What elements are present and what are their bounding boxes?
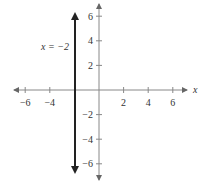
x-axis-label: x <box>192 84 198 95</box>
y-tick-label: −6 <box>82 158 93 169</box>
y-tick-label: 2 <box>88 60 93 71</box>
x-tick-label: −4 <box>44 97 55 108</box>
x-tick-label: 6 <box>170 97 175 108</box>
x-tick-label: −6 <box>20 97 31 108</box>
line-label: x = −2 <box>40 41 69 52</box>
x-tick-label: 4 <box>146 97 151 108</box>
x-tick-label: 2 <box>121 97 126 108</box>
y-tick-label: −2 <box>82 109 93 120</box>
coordinate-plane: −6−4246 642−2−4−6 x x = −2 <box>0 0 206 185</box>
y-tick-label: 4 <box>88 35 93 46</box>
y-tick-label: 6 <box>88 11 93 22</box>
y-tick-label: −4 <box>82 134 93 145</box>
